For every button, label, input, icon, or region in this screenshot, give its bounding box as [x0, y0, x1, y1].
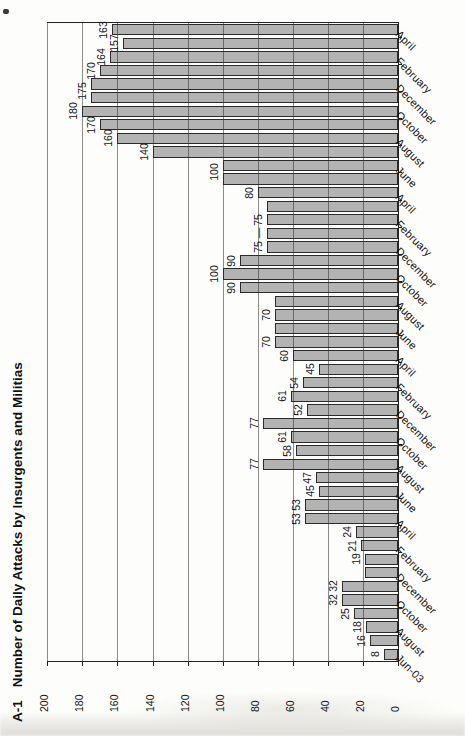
gridline [188, 23, 189, 661]
gridline [117, 23, 118, 661]
bar-value-label: 100 [208, 265, 220, 283]
bar [267, 228, 399, 239]
bar-value-label: 16 [355, 635, 367, 647]
bar [361, 540, 398, 551]
bar-value-label: 8 [369, 651, 381, 657]
bar-value-label: 75 [252, 214, 264, 226]
bar-value-label: 24 [341, 526, 353, 538]
value-tick [153, 661, 154, 666]
bar [110, 51, 398, 62]
bar [267, 241, 399, 252]
bar [82, 106, 398, 117]
chart-title: A-1Number of Daily Attacks by Insurgents… [9, 362, 26, 722]
bar-value-label: 80 [243, 187, 255, 199]
bar [267, 214, 399, 225]
value-tick [47, 661, 48, 666]
bar-value-label: 90 [225, 282, 237, 294]
bar [240, 255, 398, 266]
value-tick [82, 661, 83, 666]
bar [223, 173, 398, 184]
bar [354, 608, 398, 619]
bar-value-label: 18 [351, 621, 363, 633]
value-axis-tick-label: 140 [144, 694, 156, 712]
value-tick [117, 661, 118, 666]
bar-value-label: 75 [252, 241, 264, 253]
bar [293, 350, 398, 361]
shared-value-label: 175 [76, 82, 88, 100]
chart-title-text: Number of Daily Attacks by Insurgents an… [10, 362, 25, 700]
scan-speck [3, 9, 9, 14]
bar [366, 621, 398, 632]
bar [342, 581, 398, 592]
bar [296, 445, 398, 456]
bar-value-label: 54 [288, 377, 300, 389]
value-axis-tick-label: 0 [389, 706, 401, 712]
bar-value-label: 90 [225, 255, 237, 267]
bar-value-label: 61 [276, 390, 288, 402]
bar [305, 513, 398, 524]
value-axis-tick-label: 120 [179, 694, 191, 712]
shared-value-label: 100 [208, 164, 220, 182]
bar-value-label: 70 [260, 336, 272, 348]
bar [112, 24, 398, 35]
bar [291, 391, 398, 402]
bar-value-label: 60 [278, 350, 290, 362]
bar [153, 146, 399, 157]
bar-value-label: 58 [281, 445, 293, 457]
bar [342, 594, 398, 605]
bar [91, 78, 398, 89]
bar [263, 418, 398, 429]
bar-value-label: 53 [290, 499, 302, 511]
bar [291, 431, 398, 442]
value-tick [363, 661, 364, 666]
bar [319, 486, 398, 497]
bar [303, 377, 398, 388]
bar [223, 160, 398, 171]
value-tick [293, 661, 294, 666]
bar [91, 92, 398, 103]
gridline [223, 23, 224, 661]
bar-value-label: 77 [248, 458, 260, 470]
scanned-chart-page: A-1Number of Daily Attacks by Insurgents… [0, 0, 465, 736]
bar-value-label: 61 [276, 431, 288, 443]
gridline [153, 23, 154, 661]
bar [319, 364, 398, 375]
gridline [363, 23, 364, 661]
value-axis-tick-label: 180 [73, 694, 85, 712]
bar-value-label: 160 [102, 130, 114, 148]
bar-value-label: 157 [108, 35, 120, 53]
bar-value-label: 77 [248, 418, 260, 430]
value-tick [328, 661, 329, 666]
bar-value-label: 47 [301, 472, 313, 484]
bar [267, 201, 399, 212]
bar-value-label: 140 [138, 143, 150, 161]
value-axis-tick-label: 40 [319, 700, 331, 712]
gridline [328, 23, 329, 661]
bar [305, 499, 398, 510]
bar-value-label: 164 [95, 48, 107, 66]
bar-value-label: 21 [346, 540, 358, 552]
bar [365, 554, 398, 565]
bar-value-label: 32 [327, 594, 339, 606]
bar-value-label: 70 [260, 309, 272, 321]
bar [263, 459, 398, 470]
bar-value-label: 53 [290, 513, 302, 525]
bar-value-label: 32 [327, 580, 339, 592]
bar [240, 282, 398, 293]
value-tick [188, 661, 189, 666]
value-axis-tick-label: 200 [38, 694, 50, 712]
bar [100, 119, 398, 130]
bar [123, 38, 398, 49]
value-axis-tick-label: 20 [354, 700, 366, 712]
bar [100, 65, 398, 76]
bar-value-label: 180 [67, 102, 79, 120]
gridline [47, 23, 48, 661]
value-axis-tick-label: 100 [214, 694, 226, 712]
bar-value-label: 170 [85, 116, 97, 134]
bar [370, 635, 398, 646]
value-axis-tick-label: 80 [249, 700, 261, 712]
value-axis-tick-label: 160 [108, 694, 120, 712]
value-tick [223, 661, 224, 666]
bar-value-label: — [252, 228, 264, 239]
bar-value-label: 25 [339, 608, 351, 620]
